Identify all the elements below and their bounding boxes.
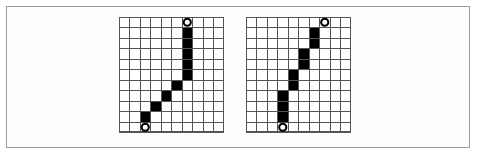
endpoint-end-marker-top bbox=[184, 19, 191, 26]
filled-cell bbox=[288, 70, 299, 81]
filled-cell bbox=[278, 112, 289, 123]
filled-cell bbox=[182, 59, 193, 70]
filled-cell bbox=[278, 101, 289, 112]
filled-cell bbox=[140, 112, 151, 123]
endpoint-start-marker-bottom bbox=[142, 124, 149, 131]
filled-cell bbox=[182, 49, 193, 60]
endpoint-start-marker-bottom bbox=[279, 124, 286, 131]
filled-cell bbox=[172, 80, 183, 91]
filled-cell bbox=[151, 101, 162, 112]
grid-canvas-left-grid bbox=[119, 17, 224, 133]
filled-cell bbox=[278, 91, 289, 102]
endpoint-end-marker-top bbox=[321, 19, 328, 26]
filled-cell bbox=[299, 49, 310, 60]
filled-cell bbox=[161, 91, 172, 102]
figure-frame bbox=[6, 6, 470, 148]
filled-cell bbox=[182, 38, 193, 49]
filled-cell bbox=[309, 28, 320, 39]
grid-canvas-right-grid bbox=[246, 17, 351, 133]
grid-panel-right-grid bbox=[246, 17, 351, 133]
filled-cell bbox=[182, 28, 193, 39]
figure-root bbox=[0, 0, 478, 154]
filled-cell bbox=[182, 70, 193, 81]
grid-panel-left-grid bbox=[119, 17, 224, 133]
filled-cell bbox=[299, 59, 310, 70]
filled-cell bbox=[288, 80, 299, 91]
filled-cell bbox=[309, 38, 320, 49]
